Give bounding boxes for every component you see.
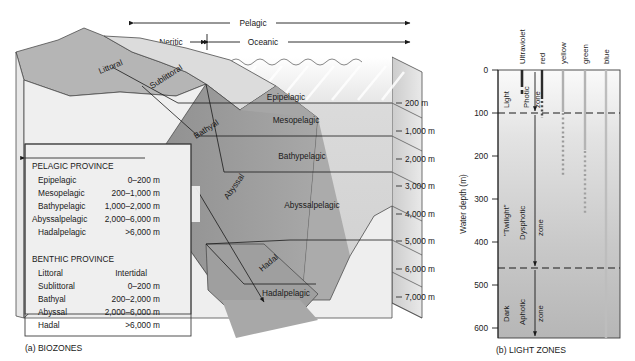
legend-pelagic-zone-2: Bathypelagic	[38, 201, 86, 211]
legend-pelagic-range-3: 2,000–6,000 m	[105, 214, 160, 224]
legend-benthic-title: BENTHIC PROVINCE	[32, 254, 115, 264]
label-hadalpelagic: Hadalpelagic	[262, 288, 310, 298]
panel-b-tick-500: 500	[474, 280, 488, 290]
legend-pelagic-zone-4: Hadalpelagic	[38, 227, 86, 237]
label-bathypelagic: Bathypelagic	[278, 151, 326, 161]
legend-pelagic-zone-0: Epipelagic	[38, 175, 76, 185]
legend-pelagic-range-1: 200–1,000 m	[112, 188, 161, 198]
aphotic-zone-word: zone	[536, 305, 545, 322]
label-blue: blue	[602, 49, 611, 64]
panel-b-tick-300: 300	[474, 194, 488, 204]
hadal-trench-shadow	[222, 300, 318, 338]
dysphotic-zone-word: zone	[536, 219, 545, 236]
panel-b-tick-600: 600	[474, 323, 488, 333]
panel-b: 0 100 200 300 400 500 600 Water depth (m…	[458, 29, 620, 355]
legend-pelagic-title: PELAGIC PROVINCE	[32, 161, 114, 171]
label-ultraviolet: Ultraviolet	[518, 29, 527, 64]
legend-benthic-range-4: >6,000 m	[125, 320, 160, 330]
legend-benthic-zone-4: Hadal	[38, 320, 60, 330]
land-left-face	[16, 52, 24, 318]
pelagic-span-label: Pelagic	[239, 18, 266, 28]
panel-a-top-arrows: Pelagic Neritic Oceanic	[134, 18, 410, 50]
legend-pelagic-range-4: >6,000 m	[125, 227, 160, 237]
panel-b-caption: (b) LIGHT ZONES	[496, 345, 566, 355]
legend-benthic-zone-3: Abyssal	[38, 307, 67, 317]
depth-tick-5000: 5,000 m	[405, 236, 435, 246]
depth-tick-3000: 3,000 m	[405, 181, 435, 191]
legend-benthic-zone-0: Littoral	[38, 268, 63, 278]
legend-pelagic-zone-1: Mesopelagic	[38, 188, 85, 198]
panel-a-caption: (a) BIOZONES	[25, 343, 83, 353]
panel-b-y-ticks	[492, 70, 498, 328]
legend-benthic-range-2: 200–2,000 m	[112, 294, 161, 304]
light-zone-plot-area	[498, 70, 620, 338]
panel-a: Pelagic Neritic Oceanic	[16, 18, 435, 353]
legend-benthic-zone-2: Bathyal	[38, 294, 66, 304]
label-mesopelagic: Mesopelagic	[273, 115, 320, 125]
label-red: red	[538, 53, 547, 64]
dysphotic-light-label: "Twilight"	[502, 204, 511, 236]
legend-benthic-range-0: Intertidal	[115, 268, 147, 278]
panel-b-tick-400: 400	[474, 237, 488, 247]
figure-canvas: Pelagic Neritic Oceanic	[0, 0, 635, 361]
dysphotic-zone-name: Dysphotic	[518, 206, 527, 240]
depth-tick-4000: 4,000 m	[405, 209, 435, 219]
depth-tick-6000: 6,000 m	[405, 264, 435, 274]
oceanic-span-label: Oceanic	[248, 37, 278, 47]
depth-tick-200: 200 m	[405, 98, 428, 108]
panel-b-tick-100: 100	[474, 108, 488, 118]
label-abyssalpelagic: Abyssalpelagic	[284, 200, 339, 210]
photic-zone-name: Photic	[522, 86, 531, 108]
legend-benthic-range-1: 0–200 m	[128, 281, 160, 291]
label-yellow: yellow	[559, 42, 568, 64]
legend-pelagic-range-0: 0–200 m	[128, 175, 160, 185]
legend-pelagic-zone-3: Abyssalpelagic	[32, 214, 87, 224]
depth-tick-1000: 1,000 m	[405, 126, 435, 136]
figure-ocean-zones: Pelagic Neritic Oceanic	[0, 0, 635, 361]
depth-tick-7000: 7,000 m	[405, 292, 435, 302]
legend-pelagic-range-2: 1,000–2,000 m	[105, 201, 160, 211]
photic-zone-word: zone	[533, 91, 542, 108]
panel-b-tick-200: 200	[474, 151, 488, 161]
panel-a-legend: PELAGIC PROVINCE Epipelagic 0–200 m Meso…	[25, 144, 191, 336]
depth-tick-2000: 2,000 m	[405, 154, 435, 164]
legend-benthic-zone-1: Sublittoral	[38, 281, 75, 291]
aphotic-zone-name: Aphotic	[518, 299, 527, 325]
panel-b-axis-title: Water depth (m)	[458, 174, 468, 234]
aphotic-light-label: Dark	[502, 305, 511, 322]
panel-b-tick-0: 0	[483, 65, 488, 75]
label-green: green	[581, 44, 590, 64]
legend-benthic-range-3: 2,000–6,000 m	[105, 307, 160, 317]
photic-light-label: Light	[502, 90, 511, 108]
label-epipelagic: Epipelagic	[267, 92, 305, 102]
